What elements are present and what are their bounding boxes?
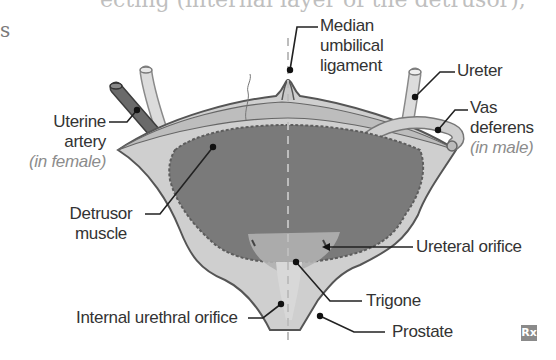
label-ureter: Ureter xyxy=(457,61,502,81)
label-trigone: Trigone xyxy=(366,291,421,311)
label-uterine-artery: Uterine artery (in female) xyxy=(20,112,106,172)
label-vas-deferens: Vas deferens (in male) xyxy=(470,98,534,158)
label-prostate: Prostate xyxy=(392,322,453,342)
label-ureteral-orifice: Ureteral orifice xyxy=(416,237,522,257)
label-median-umbilical-ligament: Median umbilical ligament xyxy=(320,16,383,76)
bladder-diagram xyxy=(0,0,556,360)
rx-logo: Rx xyxy=(521,325,537,341)
label-detrusor-muscle: Detrusor muscle xyxy=(60,204,142,244)
label-internal-urethral-orifice: Internal urethral orifice xyxy=(76,308,238,328)
